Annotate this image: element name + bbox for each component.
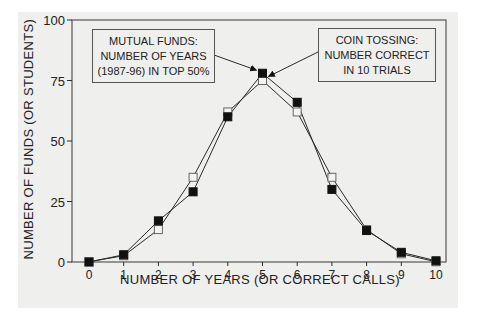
data-point-filled-square — [189, 188, 197, 196]
data-point-open-square — [293, 108, 301, 116]
y-tick-label: 75 — [51, 74, 65, 89]
arrow-mutual-funds — [214, 55, 257, 70]
data-point-open-square — [189, 173, 197, 181]
data-point-filled-square — [259, 69, 267, 77]
callout-funds-line-1: MUTUAL FUNDS: — [93, 34, 214, 49]
data-point-filled-square — [363, 227, 371, 235]
data-point-filled-square — [432, 257, 440, 265]
y-tick-label: 0 — [58, 255, 65, 270]
series-line-mutual-funds — [89, 73, 436, 262]
x-tick-label: 0 — [86, 268, 93, 282]
series-line-coin-tossing — [89, 81, 436, 262]
callout-coin-line-2: NUMBER CORRECT — [319, 48, 435, 63]
data-point-filled-square — [154, 217, 162, 225]
y-axis-label: NUMBER OF FUNDS (OR STUDENTS) — [21, 20, 36, 260]
data-point-filled-square — [85, 258, 93, 266]
callout-coin-line-3: IN 10 TRIALS — [319, 63, 435, 78]
data-point-filled-square — [293, 98, 301, 106]
y-tick-label: 25 — [51, 195, 65, 210]
data-point-open-square — [328, 173, 336, 181]
callout-coin-line-1: COIN TOSSING: — [319, 33, 435, 48]
data-point-open-square — [154, 226, 162, 234]
callout-coin-tossing: COIN TOSSING: NUMBER CORRECT IN 10 TRIAL… — [318, 28, 436, 82]
data-point-filled-square — [397, 248, 405, 256]
data-point-filled-square — [224, 113, 232, 121]
arrow-coin-tossing — [269, 52, 319, 77]
data-point-filled-square — [328, 185, 336, 193]
callout-mutual-funds: MUTUAL FUNDS: NUMBER OF YEARS (1987-96) … — [92, 29, 215, 83]
callout-funds-line-2: NUMBER OF YEARS — [93, 49, 214, 64]
x-axis-label: NUMBER OF YEARS (OR CORRECT CALLS) — [100, 272, 420, 287]
y-tick-label: 50 — [51, 134, 65, 149]
callout-funds-line-3: (1987-96) IN TOP 50% — [93, 64, 214, 79]
y-tick-label: 100 — [43, 13, 65, 28]
data-point-filled-square — [120, 251, 128, 259]
x-tick-label: 10 — [429, 268, 443, 282]
